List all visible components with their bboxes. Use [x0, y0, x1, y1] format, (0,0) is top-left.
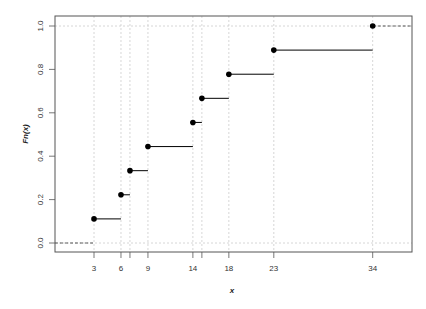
data-point	[118, 192, 124, 198]
x-tick-label: 14	[188, 264, 197, 273]
x-axis-label: x	[229, 286, 235, 295]
x-tick-label: 9	[146, 264, 151, 273]
step-segments	[55, 26, 412, 243]
y-tick-label: 0.4	[36, 150, 45, 162]
x-tick-label: 3	[92, 264, 97, 273]
y-axis: 0.00.20.40.60.81.0	[36, 20, 55, 249]
data-point	[271, 47, 277, 53]
x-tick-label: 18	[224, 264, 233, 273]
data-point	[145, 144, 151, 150]
plot-box	[55, 16, 412, 252]
data-point	[370, 23, 376, 29]
x-tick-label: 34	[368, 264, 377, 273]
data-point	[226, 71, 232, 77]
data-point	[199, 96, 205, 102]
data-point	[127, 168, 133, 174]
y-tick-label: 0.0	[36, 237, 45, 249]
ecdf-chart: 36914182334 0.00.20.40.60.81.0 x Fn(x)	[0, 0, 426, 309]
y-tick-label: 1.0	[36, 20, 45, 32]
y-tick-label: 0.2	[36, 193, 45, 205]
x-axis: 36914182334	[92, 252, 378, 273]
grid-lines	[55, 16, 412, 252]
y-tick-label: 0.6	[36, 107, 45, 119]
data-point	[91, 216, 97, 222]
data-points	[91, 23, 375, 221]
x-tick-label: 6	[119, 264, 124, 273]
y-tick-label: 0.8	[36, 63, 45, 75]
x-tick-label: 23	[269, 264, 278, 273]
y-axis-label: Fn(x)	[21, 124, 30, 144]
data-point	[190, 120, 196, 126]
